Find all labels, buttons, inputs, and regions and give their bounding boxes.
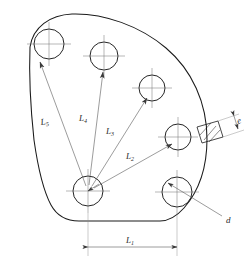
label-l3: L3: [105, 126, 114, 137]
label-d: d: [226, 215, 231, 225]
label-l2: L2: [125, 151, 134, 162]
plate-outline: [30, 14, 207, 221]
radial-dimension-l2: [94, 144, 172, 188]
hole-lower-right: [155, 170, 199, 214]
diameter-callout-leader: [168, 183, 222, 216]
label-l1: L1: [125, 235, 134, 246]
label-l5: L5: [39, 116, 49, 128]
hole-top-middle: [83, 35, 125, 77]
hole-mid-right: [158, 117, 198, 157]
hub-back-arrow: [88, 184, 99, 191]
radial-dimension-l4: [89, 72, 103, 185]
radial-dimension-l3: [92, 98, 147, 186]
hole-top-left: [27, 22, 71, 66]
label-l4: L4: [78, 113, 87, 124]
engineering-drawing-canvas: L5 L4 L3 L2 L1 d e: [0, 0, 248, 272]
dimension-l1: [88, 213, 177, 256]
hole-upper-right: [132, 68, 172, 108]
